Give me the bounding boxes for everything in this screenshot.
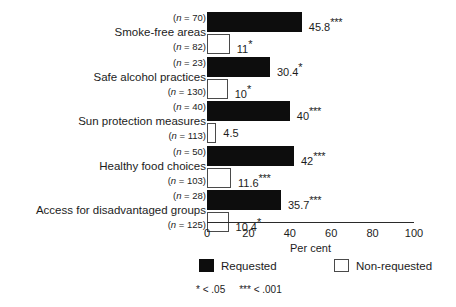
sample-size-nonrequested: (n = 82) [0,41,206,52]
x-axis-tick-label: 80 [366,227,378,239]
x-axis-tick-label: 0 [204,227,210,239]
x-axis-title: Per cent [207,242,414,254]
x-axis-line [207,222,414,223]
sample-size-requested: (n = 23) [0,57,206,68]
category-label: Healthy food choices [0,160,206,173]
sample-size-requested: (n = 40) [0,101,206,112]
sample-size-requested: (n = 50) [0,146,206,157]
footnote-p001: *** < .001 [239,284,282,295]
value-label-nonrequested: 10* [235,84,251,100]
bar-group: (n = 70)Smoke-free areas(n = 82)45.8***1… [0,12,456,54]
bar-requested [207,190,281,210]
value-label-requested: 40*** [297,106,321,122]
bar-group: (n = 40)Sun protection measures(n = 113)… [0,101,456,143]
bar-requested [207,12,302,32]
bar-requested [207,146,294,166]
category-label: Sun protection measures [0,115,206,128]
footnote-p05: * < .05 [196,284,225,295]
value-label-requested: 45.8*** [309,17,342,33]
value-label-nonrequested: 4.5 [223,128,238,139]
value-label-requested: 35.7*** [288,195,321,211]
significance-footnote: * < .05*** < .001 [196,284,282,295]
bar-group: (n = 23)Safe alcohol practices(n = 130)3… [0,57,456,99]
category-label: Smoke-free areas [0,26,206,39]
bar-nonrequested [207,168,231,188]
sample-size-nonrequested: (n = 113) [0,130,206,141]
bar-chart-figure: (n = 70)Smoke-free areas(n = 82)45.8***1… [0,0,456,307]
legend-label-requested: Requested [221,260,277,272]
bar-nonrequested [207,123,216,143]
chart-legend: Requested Non-requested [0,259,456,279]
x-axis-tick-label: 100 [405,227,423,239]
legend-swatch-nonrequested-icon [334,259,349,272]
sample-size-nonrequested: (n = 103) [0,175,206,186]
bar-nonrequested [207,79,228,99]
bar-nonrequested [207,34,230,54]
sample-size-nonrequested: (n = 125) [0,219,206,230]
legend-item-nonrequested: Non-requested [334,259,432,272]
x-axis-tick-label: 40 [284,227,296,239]
x-axis-tick-label: 20 [242,227,254,239]
value-label-requested: 30.4* [277,62,302,78]
category-label: Safe alcohol practices [0,71,206,84]
legend-label-nonrequested: Non-requested [356,260,432,272]
value-label-requested: 42*** [301,151,325,167]
sample-size-nonrequested: (n = 130) [0,86,206,97]
legend-item-requested: Requested [199,259,277,272]
sample-size-requested: (n = 28) [0,190,206,201]
category-label: Access for disadvantaged groups [0,204,206,217]
bar-requested [207,57,270,77]
value-label-nonrequested: 11.6*** [238,173,271,189]
bar-group: (n = 28)Access for disadvantaged groups(… [0,190,456,232]
sample-size-requested: (n = 70) [0,12,206,23]
legend-swatch-requested-icon [199,259,214,272]
x-axis-tick-label: 60 [325,227,337,239]
bar-requested [207,101,290,121]
value-label-nonrequested: 11* [237,39,252,55]
bar-group: (n = 50)Healthy food choices(n = 103)42*… [0,146,456,188]
